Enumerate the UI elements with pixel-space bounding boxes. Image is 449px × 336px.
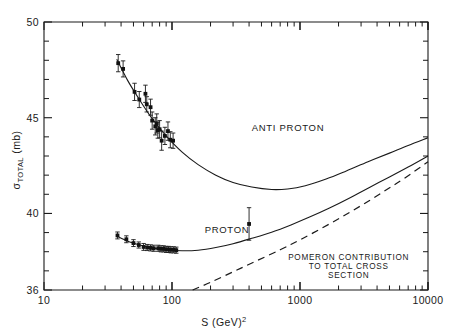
x-tick-label: 1000 bbox=[288, 294, 313, 306]
x-tick-label: 100 bbox=[163, 294, 182, 306]
data-marker bbox=[171, 139, 175, 143]
data-marker bbox=[116, 61, 120, 65]
annotation-section: SECTION bbox=[328, 271, 369, 280]
canvas-background bbox=[0, 0, 449, 336]
data-marker bbox=[149, 105, 153, 109]
x-tick-label: 10 bbox=[38, 294, 50, 306]
x-tick-label: 10000 bbox=[412, 294, 443, 306]
svg-text:S (GeV)2: S (GeV)2 bbox=[201, 315, 246, 328]
figure-container: 10100100010000 36404550 ANTI PROTONPROTO… bbox=[0, 0, 449, 336]
x-axis-title: S (GeV)2 bbox=[201, 315, 246, 328]
data-marker bbox=[144, 92, 148, 96]
data-marker bbox=[174, 248, 178, 252]
annotation-anti-proton: ANTI PROTON bbox=[252, 122, 324, 133]
data-marker bbox=[166, 129, 170, 133]
data-marker bbox=[163, 134, 167, 138]
y-axis-title-unit: (mb) bbox=[10, 131, 22, 154]
y-tick-label: 36 bbox=[27, 284, 39, 296]
y-tick-label: 40 bbox=[27, 207, 39, 219]
data-marker bbox=[158, 127, 162, 131]
data-marker bbox=[137, 243, 141, 247]
data-marker bbox=[133, 90, 137, 94]
data-marker bbox=[137, 98, 141, 102]
y-tick-label: 45 bbox=[27, 112, 39, 124]
y-tick-label: 50 bbox=[27, 16, 39, 28]
data-marker bbox=[132, 241, 136, 245]
chart-canvas: 10100100010000 36404550 ANTI PROTONPROTO… bbox=[0, 0, 449, 336]
data-marker bbox=[145, 102, 149, 106]
data-marker bbox=[142, 245, 146, 249]
data-marker bbox=[145, 246, 149, 250]
data-marker bbox=[121, 67, 125, 71]
data-marker bbox=[116, 234, 120, 238]
data-marker bbox=[124, 237, 128, 241]
annotation-proton: PROTON bbox=[205, 224, 250, 235]
x-axis-title-base: S (GeV) bbox=[201, 316, 242, 328]
x-axis-title-exponent: 2 bbox=[242, 315, 247, 324]
data-marker bbox=[152, 246, 156, 250]
y-axis-title-subscript: TOTAL bbox=[16, 157, 25, 182]
data-marker bbox=[160, 139, 164, 143]
data-marker bbox=[150, 119, 154, 123]
